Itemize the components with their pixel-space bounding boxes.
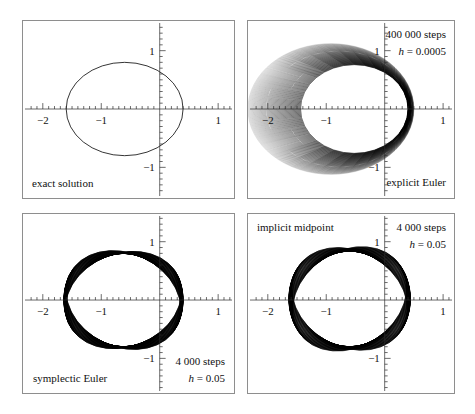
y-axis-tick-label: 1 (374, 236, 379, 248)
x-axis-tick-label: −2 (37, 305, 49, 317)
y-axis-tick-label: 1 (149, 45, 154, 57)
axis-group: −2−11−11 (25, 23, 232, 196)
panel-exact-plot: −2−11−11 (23, 21, 234, 198)
x-axis-tick-label: −2 (262, 114, 274, 126)
x-axis-tick-label: 1 (215, 114, 220, 126)
stepsize-equals: = (194, 372, 206, 384)
panel-midpoint-steps-label: 4 000 steps (397, 221, 447, 234)
stepsize-equals: = (404, 45, 416, 57)
panel-implicit-midpoint: −2−11−11 implicit midpoint 4 000 steps h… (247, 213, 455, 394)
x-axis-tick-label: 1 (440, 305, 445, 317)
x-axis-tick-label: −2 (262, 305, 274, 317)
x-axis-tick-label: −1 (95, 114, 107, 126)
y-axis-tick-label: −1 (143, 352, 155, 364)
stepsize-value: 0.05 (427, 238, 446, 250)
panel-symplectic-euler: −2−11−11 4 000 steps h = 0.05 symplectic… (22, 213, 235, 394)
stepsize-value: 0.05 (206, 372, 225, 384)
y-axis-tick-label: −1 (143, 161, 155, 173)
panel-exact-solution: −2−11−11 exact solution (22, 20, 235, 199)
x-axis-tick-label: −1 (320, 114, 332, 126)
panel-exact-method-label: exact solution (32, 177, 93, 190)
y-axis-tick-label: −1 (368, 161, 380, 173)
panel-explicit-euler: −2−11−11 400 000 steps h = 0.0005 explic… (247, 20, 455, 199)
stepsize-value: 0.0005 (416, 45, 446, 57)
x-axis-tick-label: −1 (320, 305, 332, 317)
stepsize-equals: = (415, 238, 427, 250)
y-axis-tick-label: 1 (149, 236, 154, 248)
panel-explicit-method-label: explicit Euler (386, 176, 446, 189)
panel-explicit-stepsize-label: h = 0.0005 (399, 45, 446, 58)
panel-symplectic-method-label: symplectic Euler (33, 372, 107, 385)
panel-midpoint-method-label: implicit midpoint (257, 221, 334, 234)
panel-symplectic-stepsize-label: h = 0.05 (189, 372, 225, 385)
y-axis-tick-label: −1 (368, 352, 380, 364)
y-axis-tick-label: 1 (374, 45, 379, 57)
panel-midpoint-stepsize-label: h = 0.05 (410, 238, 446, 251)
x-axis-tick-label: −2 (37, 114, 49, 126)
x-axis-tick-label: 1 (440, 114, 445, 126)
kepler-integrator-figure: −2−11−11 exact solution −2−11−11 400 000… (0, 0, 475, 414)
panel-symplectic-steps-label: 4 000 steps (176, 355, 226, 368)
panel-explicit-steps-label: 400 000 steps (386, 28, 447, 41)
x-axis-tick-label: −1 (95, 305, 107, 317)
x-axis-tick-label: 1 (215, 305, 220, 317)
